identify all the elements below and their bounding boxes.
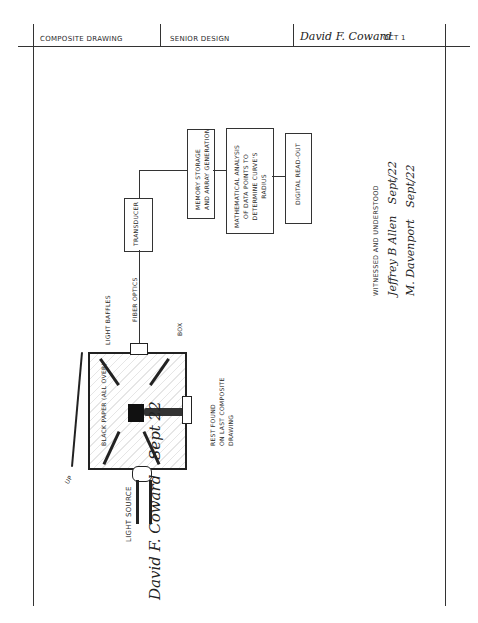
witness-signature-2: M. Davenport Sept/22 bbox=[404, 164, 417, 296]
rest-found-line3: DRAWING bbox=[226, 377, 235, 446]
memory-label-line2: AND ARRAY GENERATION bbox=[202, 129, 211, 210]
header-bottom-rule bbox=[18, 46, 470, 47]
witness-2-date: Sept/22 bbox=[404, 164, 417, 207]
memory-label-line1: MEMORY STORAGE bbox=[193, 129, 202, 210]
witness-2-name: M. Davenport bbox=[404, 219, 417, 296]
analysis-label-line3: DETERMINE CURVE'S bbox=[250, 145, 259, 228]
witness-heading: WITNESSED AND UNDERSTOOD bbox=[372, 185, 380, 296]
page-left-border bbox=[33, 24, 34, 606]
lid-line bbox=[71, 352, 83, 467]
analysis-label-line4: RADIUS bbox=[259, 145, 268, 228]
fiber-optics-label: FIBER OPTICS bbox=[131, 277, 138, 322]
connector-trans-up bbox=[139, 170, 140, 198]
fiber-optic-line bbox=[139, 250, 140, 344]
memory-label: MEMORY STORAGE AND ARRAY GENERATION bbox=[193, 129, 211, 210]
header-title: COMPOSITE DRAWING bbox=[40, 35, 123, 43]
header-date: OCT 1 bbox=[383, 34, 406, 42]
page-right-border bbox=[445, 24, 446, 606]
box-label: BOX bbox=[176, 323, 183, 336]
rest-found-line2: ON LAST COMPOSITE bbox=[217, 377, 226, 446]
light-source-label: LIGHT SOURCE bbox=[125, 486, 133, 542]
connector-mem-analysis bbox=[213, 170, 226, 171]
witness-signature-1: Jeffrey B Allen Sept/22 bbox=[386, 161, 399, 296]
header-divider-2 bbox=[293, 24, 294, 46]
header-course: SENIOR DESIGN bbox=[170, 35, 230, 43]
black-paper-label: BLACK PAPER (ALL OVER) bbox=[100, 363, 107, 446]
mount-bracket bbox=[182, 396, 192, 424]
analysis-label: MATHEMATICAL ANALYSIS OF DATA POINTS TO … bbox=[232, 145, 268, 228]
witness-1-date: Sept/22 bbox=[386, 161, 399, 204]
analysis-label-line2: OF DATA POINTS TO bbox=[241, 145, 250, 228]
light-baffles-label: LIGHT BAFFLES bbox=[104, 295, 111, 345]
connector-trans-mem bbox=[139, 170, 187, 171]
author-date: Sept 22 bbox=[146, 401, 164, 460]
author-signature: David F. Coward Sept 22 bbox=[146, 401, 164, 600]
fiber-optic-port bbox=[130, 343, 148, 355]
header-divider-1 bbox=[160, 24, 161, 46]
analysis-label-line1: MATHEMATICAL ANALYSIS bbox=[232, 145, 241, 228]
transducer-label: TRANSDUCER bbox=[132, 202, 139, 246]
rest-found-line1: REST FOUND bbox=[208, 377, 217, 446]
connector-analysis-readout bbox=[272, 176, 285, 177]
up-label: UP bbox=[63, 474, 73, 485]
author-name: David F. Coward bbox=[146, 475, 164, 600]
witness-1-name: Jeffrey B Allen bbox=[386, 216, 399, 296]
readout-label: DIGITAL READ-OUT bbox=[294, 143, 301, 205]
header-signature: David F. Coward bbox=[300, 30, 392, 43]
specimen-head bbox=[128, 404, 144, 422]
rest-found-label: REST FOUND ON LAST COMPOSITE DRAWING bbox=[208, 377, 235, 446]
